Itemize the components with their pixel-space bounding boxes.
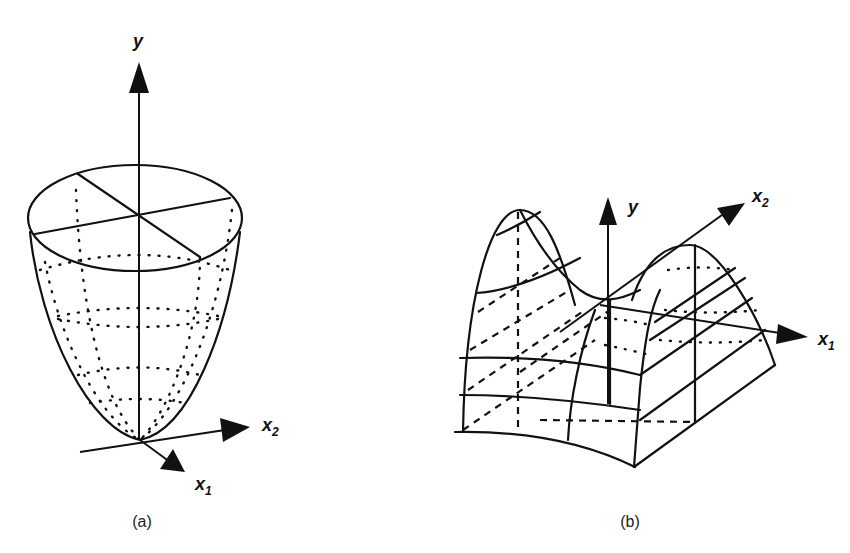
x2-axis-label-a: x2 — [261, 415, 279, 439]
hidden-meridian-1 — [76, 190, 140, 440]
rim-diameter-2 — [35, 198, 230, 234]
hidden-base — [540, 420, 695, 422]
x2-axis-arrowhead-a — [220, 418, 250, 442]
x1-axis-arrowhead-a — [160, 449, 185, 472]
hidden-meridian-4 — [45, 262, 140, 440]
front-corner-edge — [634, 290, 660, 467]
dotted-contour-2 — [665, 310, 760, 313]
front-grid-line-1 — [460, 358, 640, 375]
right-grid-line-1 — [640, 330, 765, 420]
hidden-diag-3 — [470, 290, 570, 350]
y-axis-arrowhead-a — [129, 62, 149, 93]
panel-b-saddle: y x2 x1 (b) — [455, 186, 835, 530]
hidden-contour-1 — [40, 255, 230, 270]
caption-b: (b) — [620, 513, 640, 530]
dotted-contour-4 — [605, 318, 650, 325]
y-axis-label-b: y — [627, 197, 639, 217]
x1-axis-label-b: x1 — [817, 329, 835, 353]
x2-axis-b — [560, 215, 722, 332]
y-axis-label-a: y — [132, 31, 144, 51]
x1-axis-label-a: x1 — [194, 474, 212, 498]
right-grid-line-3 — [650, 278, 745, 340]
dotted-contour-5 — [605, 345, 650, 355]
hidden-contour-5 — [90, 399, 185, 403]
hidden-meridian-2 — [140, 210, 232, 440]
caption-a: (a) — [132, 513, 152, 530]
front-bottom-edge — [455, 432, 635, 467]
hidden-meridian-3 — [140, 258, 200, 440]
rim-ellipse-a — [28, 165, 242, 271]
panel-a-paraboloid: y x2 x1 (a) — [28, 31, 279, 530]
front-grid-line-2 — [460, 395, 640, 410]
right-bottom-edge — [634, 365, 775, 467]
x2-axis-label-b: x2 — [751, 186, 769, 210]
x1-axis-b — [600, 305, 780, 333]
x1-axis-a — [140, 440, 170, 462]
figure-canvas: y x2 x1 (a) — [0, 0, 850, 553]
x1-axis-arrowhead-b — [776, 324, 808, 344]
hidden-diag-2 — [468, 310, 585, 390]
y-axis-arrowhead-b — [599, 197, 617, 225]
dotted-contour-3 — [660, 340, 765, 343]
